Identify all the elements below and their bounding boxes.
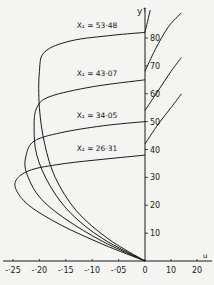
x-tick-label: 20 xyxy=(192,266,202,275)
x-tick-label: -·10 xyxy=(84,266,100,275)
curve-label: X₁ = 26·31 xyxy=(77,144,118,153)
y-tick-label: 20 xyxy=(150,201,160,210)
profile-curve-0 xyxy=(15,155,145,261)
x-tick-label: -·15 xyxy=(58,266,74,275)
x-tick-label: -·20 xyxy=(32,266,48,275)
curve-labels: X₁ = 26·31X₁ = 34·05X₁ = 43·07X₁ = 53·48 xyxy=(77,21,118,153)
y-axis-arrow-icon: ↑ xyxy=(142,6,147,13)
y-tick-label: 40 xyxy=(150,146,160,155)
curve-label: X₁ = 34·05 xyxy=(77,111,118,120)
curve-group xyxy=(15,10,182,261)
x-tick-label: 0 xyxy=(142,266,147,275)
velocity-profile-chart: -·25-·20-·15-·10-·0501020 10203040506070… xyxy=(0,0,214,285)
positive-branch-3 xyxy=(145,10,150,32)
curve-label: X₁ = 43·07 xyxy=(77,69,118,78)
y-tick-label: 60 xyxy=(150,90,160,99)
y-tick-label: 30 xyxy=(150,173,160,182)
y-tick-label: 80 xyxy=(150,34,160,43)
y-tick-label: 50 xyxy=(150,118,160,127)
x-tick-label: -·25 xyxy=(5,266,21,275)
y-tick-label: 10 xyxy=(150,229,160,238)
x-tick-label: -·05 xyxy=(111,266,127,275)
y-tick-label: 70 xyxy=(150,62,160,71)
y-axis-ticks: 1020304050607080 xyxy=(145,34,160,238)
x-axis-label: u xyxy=(203,252,207,260)
curve-label: X₁ = 53·48 xyxy=(77,21,118,30)
profile-curve-1 xyxy=(25,122,145,261)
x-tick-label: 10 xyxy=(166,266,176,275)
